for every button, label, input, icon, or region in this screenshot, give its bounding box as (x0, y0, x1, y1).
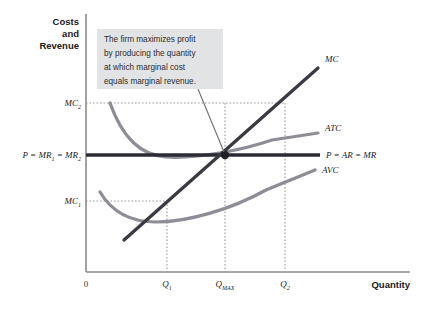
avc-curve (100, 170, 315, 222)
y-tick-price: P = MR1 = MR2 (22, 150, 81, 162)
y-tick-mc2: MC2 (64, 98, 82, 110)
y-tick-mc2-subscript: 2 (78, 104, 81, 110)
x-axis-title: Quantity (371, 279, 410, 290)
y-axis-title-line3: Revenue (39, 40, 79, 51)
x-tick-q1-subscript: 1 (169, 285, 172, 291)
chart-canvas: Costs and Revenue Quantity The firm maxi… (0, 0, 434, 311)
callout-line-3: at which marginal cost (104, 63, 186, 72)
y-axis-title-line1: Costs (53, 16, 79, 27)
price-line-label: P = AR = MR (325, 150, 377, 160)
y-tick-mc1-text: MC (64, 196, 79, 206)
y-tick-mc2-text: MC (64, 98, 79, 108)
y-tick-price-text-2: = MR (54, 150, 78, 160)
x-tick-qmax-subscript: MAX (221, 285, 235, 291)
atc-curve-label: ATC (324, 123, 342, 133)
x-tick-qmax: QMAX (216, 279, 235, 291)
y-tick-mc1-subscript: 1 (78, 202, 81, 208)
callout-line-1: The firm maximizes profit (104, 35, 196, 44)
x-tick-q1: Q1 (162, 279, 172, 291)
x-tick-q2-subscript: 2 (287, 285, 290, 291)
callout-line-2: by producing the quantity (104, 49, 196, 58)
y-tick-price-text: P = MR (22, 150, 52, 160)
callout-leader-line (198, 89, 224, 152)
mc-curve-label: MC (324, 54, 339, 64)
callout-line-4: equals marginal revenue. (104, 77, 196, 86)
y-tick-price-subscript-2: 2 (78, 156, 81, 162)
avc-curve-label: AVC (321, 165, 340, 175)
atc-curve (110, 103, 318, 157)
x-tick-q2: Q2 (280, 279, 290, 291)
marginal-cost-revenue-chart: Costs and Revenue Quantity The firm maxi… (0, 0, 434, 311)
equilibrium-point-marker (221, 151, 229, 159)
x-tick-zero: 0 (84, 279, 89, 289)
y-tick-mc1: MC1 (64, 196, 82, 208)
y-axis-title-line2: and (62, 28, 79, 39)
